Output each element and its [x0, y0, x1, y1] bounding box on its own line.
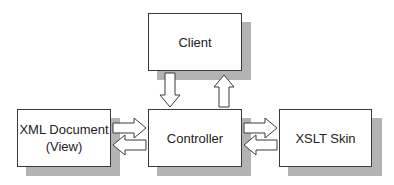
arrow-right-icon: [244, 118, 277, 138]
arrow-right-icon: [113, 118, 146, 138]
arrow-left-icon: [113, 135, 146, 155]
arrow-down-icon: [160, 73, 180, 107]
arrow-up-icon: [214, 75, 234, 107]
arrow-layer: [0, 0, 394, 185]
arrow-left-icon: [244, 135, 277, 155]
